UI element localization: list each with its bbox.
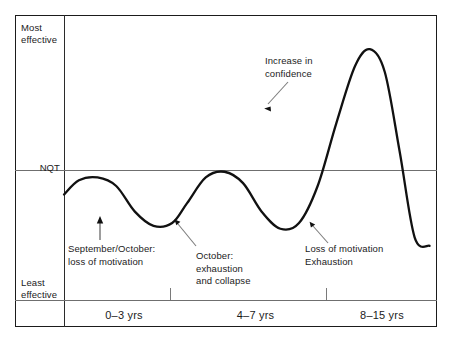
y-axis-label-least-effective: Least effective	[21, 277, 63, 300]
annotation-september-october: September/October: loss of motivation	[68, 243, 178, 268]
y-axis-label-nqt: NQT	[20, 162, 60, 174]
chart-screenshot: Most effective NQT Least effective 0–3 y…	[0, 0, 452, 344]
x-tick-2	[326, 288, 327, 300]
x-axis-line	[15, 300, 437, 301]
y-axis-label-most-effective: Most effective	[21, 22, 63, 45]
annotation-loss-of-motivation: Loss of motivation Exhaustion	[305, 243, 405, 268]
annotation-increase-in-confidence: Increase in confidence	[265, 55, 355, 80]
x-axis-band-4-7-yrs: 4–7 yrs	[184, 305, 327, 326]
nqt-baseline	[15, 170, 437, 171]
x-axis-band-8-15-yrs: 8–15 yrs	[327, 305, 437, 326]
x-tick-1	[170, 288, 171, 300]
x-axis-band-0-3-yrs: 0–3 yrs	[64, 305, 184, 326]
annotation-october-exhaustion: October: exhaustion and collapse	[196, 250, 266, 288]
